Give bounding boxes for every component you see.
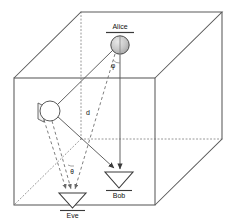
eve-detector-triangle[interactable] [59,193,86,208]
beam-scatterer-to-eve-left [44,120,66,189]
eve-label: Eve [66,212,78,219]
diagram-canvas: Alice φ d θ Bob Eve [0,0,234,224]
cube-scene-svg: Alice φ d θ Bob Eve [0,0,234,224]
beam-scatterer-to-eve-right [52,121,71,189]
scatterer-particle[interactable] [40,101,60,121]
cube-face-right [155,12,222,205]
alice-label: Alice [112,23,127,30]
theta-label: θ [70,168,74,175]
bob-detector-triangle[interactable] [105,172,133,188]
node-eve[interactable] [59,193,86,211]
phi-label: φ [111,62,115,70]
node-bob[interactable] [105,172,133,191]
node-alice[interactable] [106,33,134,55]
beam-scatterer-to-bob [57,116,114,168]
bob-label: Bob [113,192,126,199]
node-scatterer[interactable] [38,101,60,122]
theta-angle-arc [68,165,74,166]
distance-label: d [86,109,90,116]
